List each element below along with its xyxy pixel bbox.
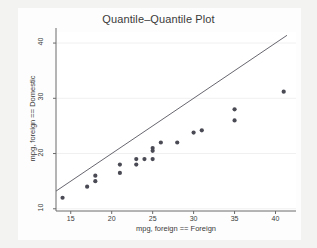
axes [0,0,317,248]
y-tick-label: 40 [37,32,44,52]
y-tick-label: 20 [37,142,44,162]
axis-lines [56,28,296,211]
y-axis-label: mpg, foreign == Domestic [28,29,37,209]
x-tick-label: 35 [223,215,247,222]
x-tick-label: 25 [141,215,165,222]
x-tick-label: 40 [264,215,288,222]
chart-figure: Quantile–Quantile Plot 152025303540 1020… [0,0,317,248]
x-tick-label: 30 [182,215,206,222]
y-tick-label: 30 [37,87,44,107]
tick-marks [53,43,276,214]
x-tick-label: 20 [100,215,124,222]
y-tick-label: 10 [37,197,44,217]
x-axis-label: mpg, foreign == Foreign [56,224,296,233]
x-tick-label: 15 [59,215,83,222]
